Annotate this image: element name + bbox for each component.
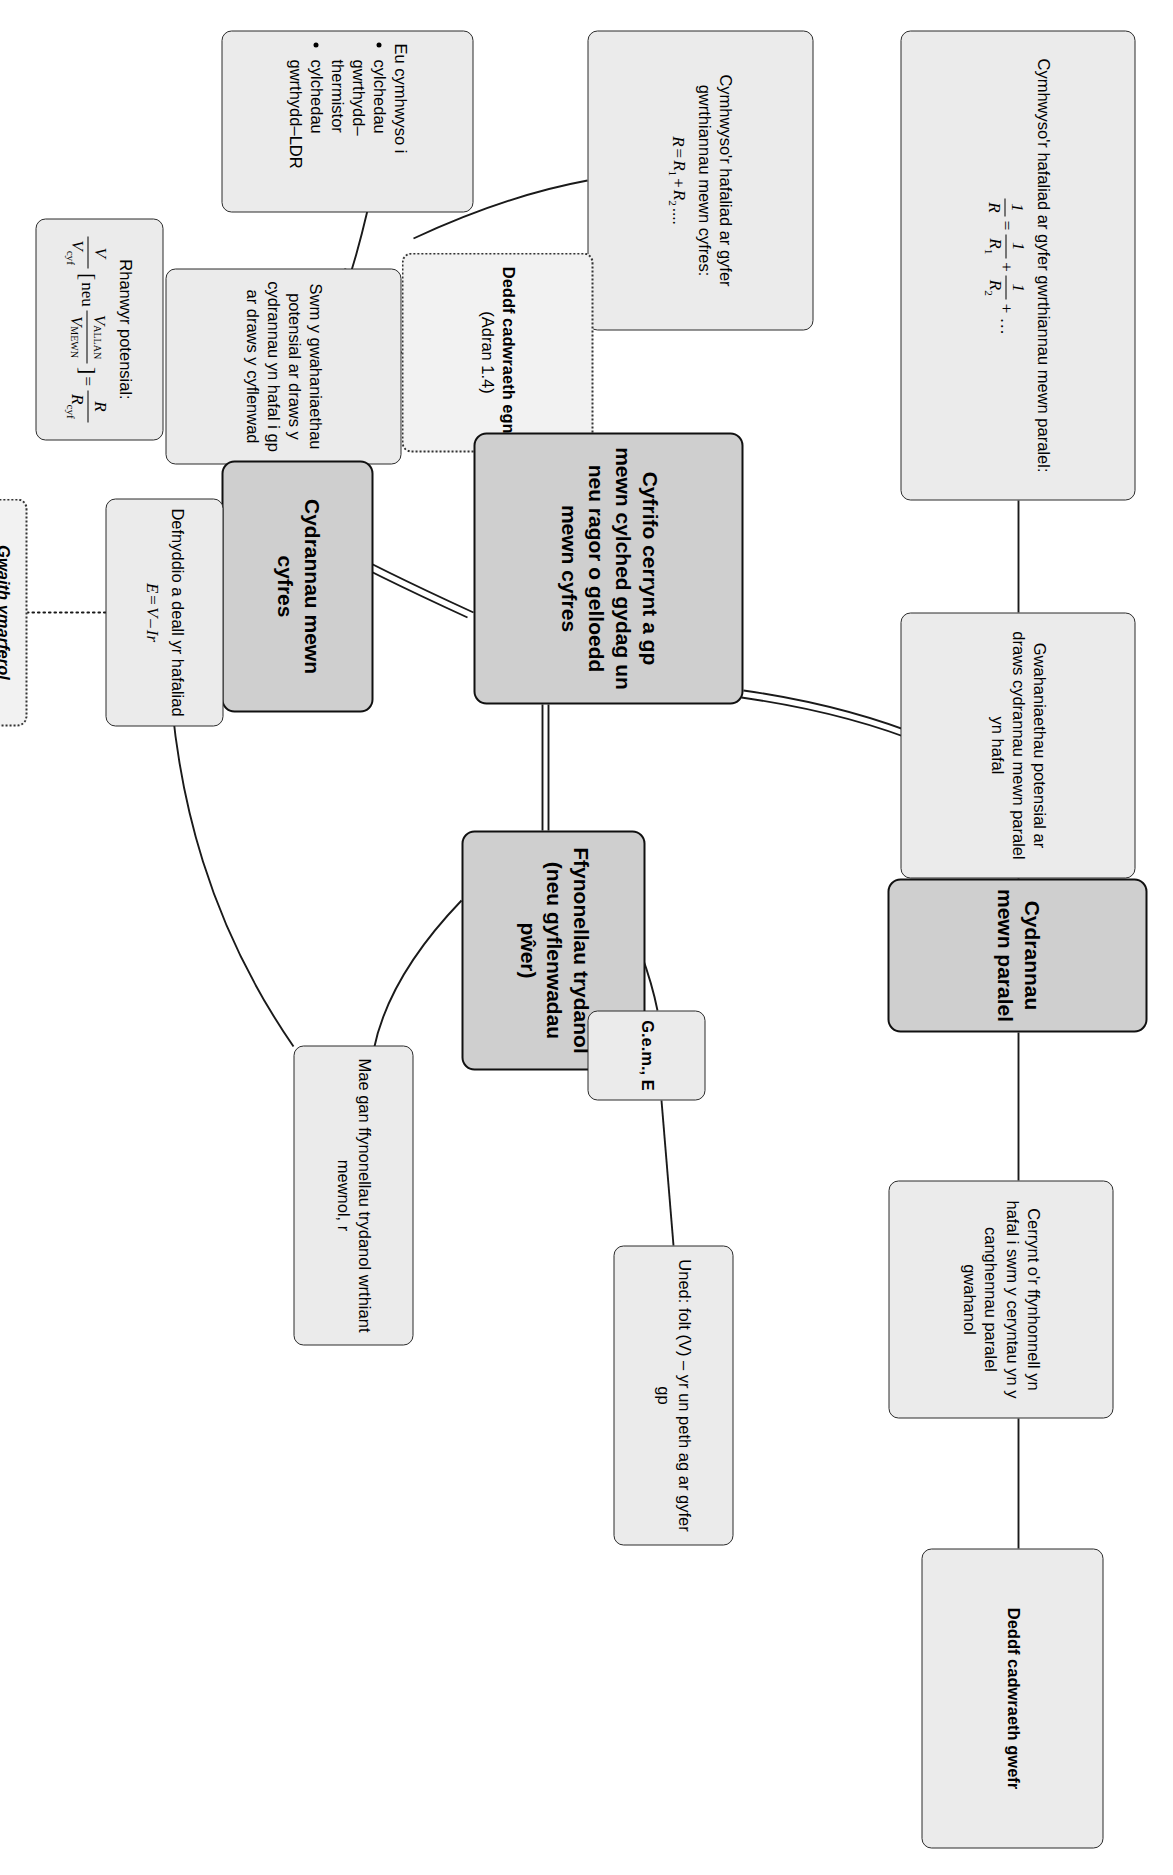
series-formula-math: R=R1 +R2....	[665, 39, 689, 321]
node-use-understand-equation[interactable]: Defnyddio a deall yr hafaliad E=V–Ir	[105, 498, 223, 726]
node-central-calculate-current-pd[interactable]: Cyfrifo cerrynt a gp mewn cylched gydag …	[473, 432, 743, 704]
parallel-formula-math: 1R = 1R1 + 1R2 + …	[982, 39, 1029, 491]
internal-resistance-text: Mae gan ffynonellau trydanol wrthiant me…	[332, 1054, 374, 1336]
concept-map-canvas: Cymhwyso'r hafaliad ar gyfer gwrthiannau…	[0, 0, 1173, 1875]
potential-dividers-label: Rhanwyr potensial:	[114, 227, 135, 431]
node-components-in-parallel-header[interactable]: Cydrannau mewn paralel	[887, 878, 1147, 1032]
parallel-formula-label: Cymhwyso'r hafaliad ar gyfer gwrthiannau…	[1032, 39, 1053, 491]
applications-bullets: cylchedau gwrthydd–thermistor cylchedau …	[284, 43, 390, 199]
node-internal-resistance[interactable]: Mae gan ffynonellau trydanol wrthiant me…	[293, 1045, 413, 1345]
series-formula-label: Cymhwyso'r hafaliad ar gyfer gwrthiannau…	[693, 39, 735, 321]
sum-of-pds-text: Swm y gwahaniaethau potensial ar draws y…	[241, 277, 325, 455]
list-item: cylchedau gwrthydd–thermistor	[326, 59, 389, 199]
source-current-sum-text: Cerrynt o'r ffynhonnell yn hafal i swm y…	[958, 1189, 1042, 1409]
components-in-parallel-label: Cydrannau mewn paralel	[990, 888, 1044, 1022]
node-parallel-resistance-formula[interactable]: Cymhwyso'r hafaliad ar gyfer gwrthiannau…	[900, 30, 1135, 500]
node-charge-conservation-law[interactable]: Deddf cadwraeth gwefr	[921, 1548, 1103, 1848]
energy-conservation-title: Deddf cadwraeth egni	[497, 262, 518, 442]
use-equation-math: E=V–Ir	[141, 507, 163, 717]
parallel-pd-text: Gwahaniaethau potensial ar draws cydrann…	[986, 621, 1049, 869]
emf-label: G.e.m., E	[635, 1019, 656, 1091]
list-item: cylchedau gwrthydd–LDR	[284, 59, 326, 199]
electrical-sources-label: Ffynonellau trydanol (neu gyflenwadau pŵ…	[513, 840, 594, 1060]
node-potential-dividers[interactable]: Rhanwyr potensial: VVcyf [neu VallanVmew…	[35, 218, 163, 440]
node-parallel-pd-equal[interactable]: Gwahaniaethau potensial ar draws cydrann…	[900, 612, 1135, 878]
charge-conservation-label: Deddf cadwraeth gwefr	[1001, 1557, 1022, 1839]
node-emf[interactable]: G.e.m., E	[587, 1010, 705, 1100]
energy-conservation-section: (Adran 1.4)	[476, 262, 497, 442]
node-sum-of-pds[interactable]: Swm y gwahaniaethau potensial ar draws y…	[165, 268, 401, 464]
components-in-series-label: Cydrannau mewn cyfres	[270, 470, 324, 702]
node-energy-conservation-law[interactable]: Deddf cadwraeth egni (Adran 1.4)	[401, 252, 593, 452]
node-source-current-sum[interactable]: Cerrynt o'r ffynhonnell yn hafal i swm y…	[888, 1180, 1113, 1418]
central-node-label: Cyfrifo cerrynt a gp mewn cylched gydag …	[554, 442, 662, 694]
applications-intro: Eu cymhwyso i	[389, 43, 410, 199]
node-series-resistance-formula[interactable]: Cymhwyso'r hafaliad ar gyfer gwrthiannau…	[587, 30, 813, 330]
node-components-in-series-header[interactable]: Cydrannau mewn cyfres	[221, 460, 373, 712]
node-applications-list[interactable]: Eu cymhwyso i cylchedau gwrthydd–thermis…	[221, 30, 473, 212]
node-specified-practical-work[interactable]: Gwaith ymarferol penodol: Darganfod gwrt…	[0, 498, 27, 726]
unit-volt-text: Uned: folt (V) – yr un peth ag ar gyfer …	[652, 1254, 694, 1536]
potential-dividers-math: VVcyf [neu VallanVmewn ] = RRcyf	[63, 227, 110, 431]
practical-work-title: Gwaith ymarferol penodol:	[0, 508, 13, 716]
node-unit-volt[interactable]: Uned: folt (V) – yr un peth ag ar gyfer …	[613, 1245, 733, 1545]
use-equation-label: Defnyddio a deall yr hafaliad	[166, 507, 187, 717]
